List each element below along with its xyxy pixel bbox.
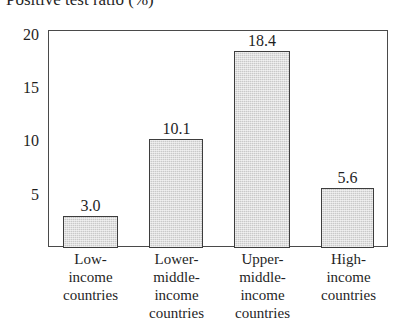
x-label-lower-middle-income-line-1: Lower-: [132, 250, 221, 268]
bar-low-income[interactable]: [63, 216, 118, 248]
y-tick-label-10: 10: [0, 133, 48, 149]
x-label-lower-middle-income-line-4: countries: [132, 304, 221, 322]
x-label-low-income-line-2: income: [46, 268, 135, 286]
x-label-low-income-line-3: countries: [46, 286, 135, 304]
x-label-low-income-line-1: Low-: [46, 250, 135, 268]
x-label-upper-middle-income: Upper- middle- income countries: [218, 250, 307, 322]
bar-lower-middle-income[interactable]: [149, 139, 203, 248]
bar-value-lower-middle-income: 10.1: [146, 120, 207, 138]
x-label-lower-middle-income: Lower- middle- income countries: [132, 250, 221, 322]
x-label-high-income-line-3: countries: [304, 286, 393, 304]
x-label-high-income-line-1: High-: [304, 250, 393, 268]
bar-upper-middle-income[interactable]: [234, 51, 290, 248]
x-label-low-income: Low- income countries: [46, 250, 135, 304]
x-label-lower-middle-income-line-3: income: [132, 286, 221, 304]
y-tick-label-20: 20: [0, 27, 48, 43]
x-label-lower-middle-income-line-2: middle-: [132, 268, 221, 286]
x-label-upper-middle-income-line-2: middle-: [218, 268, 307, 286]
y-tick-label-15: 15: [0, 80, 48, 96]
x-label-upper-middle-income-line-4: countries: [218, 304, 307, 322]
bar-value-upper-middle-income: 18.4: [231, 32, 293, 50]
bar-high-income[interactable]: [321, 188, 374, 248]
x-label-upper-middle-income-line-1: Upper-: [218, 250, 307, 268]
x-label-high-income: High- income countries: [304, 250, 393, 304]
x-label-upper-middle-income-line-3: income: [218, 286, 307, 304]
x-label-high-income-line-2: income: [304, 268, 393, 286]
bar-value-high-income: 5.6: [317, 169, 378, 187]
bar-value-low-income: 3.0: [60, 197, 121, 215]
chart-page: Positive test ratio (%) 20 15 10 5 3.0 1…: [0, 0, 399, 334]
chart-title: Positive test ratio (%): [6, 0, 154, 10]
y-tick-label-5: 5: [0, 187, 48, 203]
